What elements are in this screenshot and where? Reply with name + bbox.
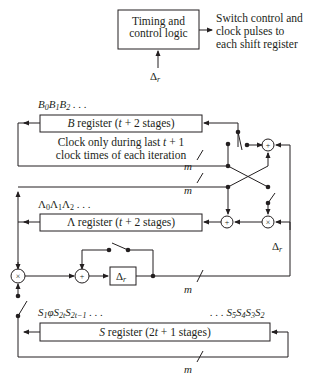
s-sequence-right: . . . S5S4S3S2 [210,306,265,322]
bus-width-label-2: m [184,184,192,196]
timing-line-2: control logic [118,27,199,39]
diagram-wiring: + + × × + [0,0,311,379]
delay-block-label: Δr [116,270,126,286]
bus-width-label-1: m [184,160,192,172]
s-register-label: S register (2t + 1 stages) [40,326,270,338]
bus-width-label-4: m [184,363,192,375]
timing-input-label: Δr [150,70,160,86]
multiplier-bottom-symbol: × [16,272,21,281]
adder-bottom-symbol: + [80,272,85,281]
b-sequence-label: B0B1B2 . . . [38,98,87,114]
timing-line-1: Timing and [118,15,199,27]
s-sequence-left: S1φS2tS2t−1 . . . [38,306,103,322]
adder-top-symbol: + [266,141,271,150]
lambda-register-label: Λ register (t + 2 stages) [40,216,202,228]
bus-width-label-3: m [184,283,192,295]
lambda-sequence-label: Λ0Λ1Λ2 . . . [38,198,90,214]
b-register-label: B register (t + 2 stages) [40,117,202,129]
multiplier-lambda-symbol: × [266,218,271,227]
output-line-2: clock pulses to [216,25,303,38]
b-note-line-1: Clock only during last t + 1 [40,136,202,149]
b-register-note: Clock only during last t + 1 clock times… [40,136,202,162]
side-delta-label: Δr [272,240,282,256]
output-line-3: each shift register [216,38,303,51]
timing-block-label: Timing and control logic [118,15,199,39]
b-note-line-2: clock times of each iteration [40,149,202,162]
output-line-1: Switch control and [216,12,303,25]
adder-lambda-symbol: + [225,218,230,227]
timing-output-label: Switch control and clock pulses to each … [216,12,303,51]
